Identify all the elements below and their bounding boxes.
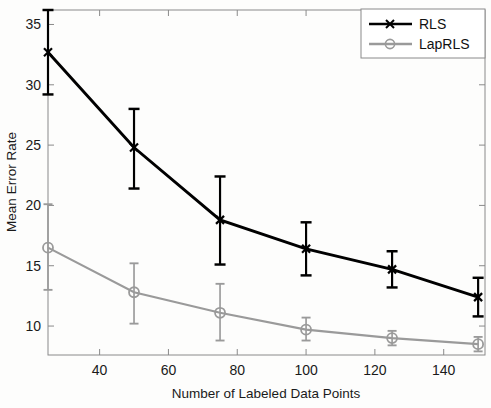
chart-background bbox=[0, 0, 491, 408]
y-tick-label: 30 bbox=[25, 77, 41, 93]
y-tick-label: 35 bbox=[25, 16, 41, 32]
chart-figure: 406080100120140 101520253035 Number of L… bbox=[0, 0, 491, 408]
legend-label-rls: RLS bbox=[419, 16, 446, 32]
y-tick-label: 20 bbox=[25, 197, 41, 213]
chart-legend[interactable]: RLS LapRLS bbox=[361, 9, 485, 58]
line-chart-svg: 406080100120140 101520253035 Number of L… bbox=[0, 0, 491, 408]
x-tick-label: 60 bbox=[161, 362, 177, 378]
x-tick-label: 100 bbox=[294, 362, 318, 378]
legend-label-laprls: LapRLS bbox=[419, 36, 470, 52]
y-tick-label: 25 bbox=[25, 137, 41, 153]
y-tick-label: 15 bbox=[25, 258, 41, 274]
y-axis-label: Mean Error Rate bbox=[4, 132, 19, 232]
y-tick-label: 10 bbox=[25, 318, 41, 334]
x-tick-label: 40 bbox=[92, 362, 108, 378]
x-tick-label: 120 bbox=[363, 362, 387, 378]
x-tick-label: 80 bbox=[229, 362, 245, 378]
x-axis-label: Number of Labeled Data Points bbox=[172, 386, 361, 401]
x-tick-label: 140 bbox=[432, 362, 456, 378]
